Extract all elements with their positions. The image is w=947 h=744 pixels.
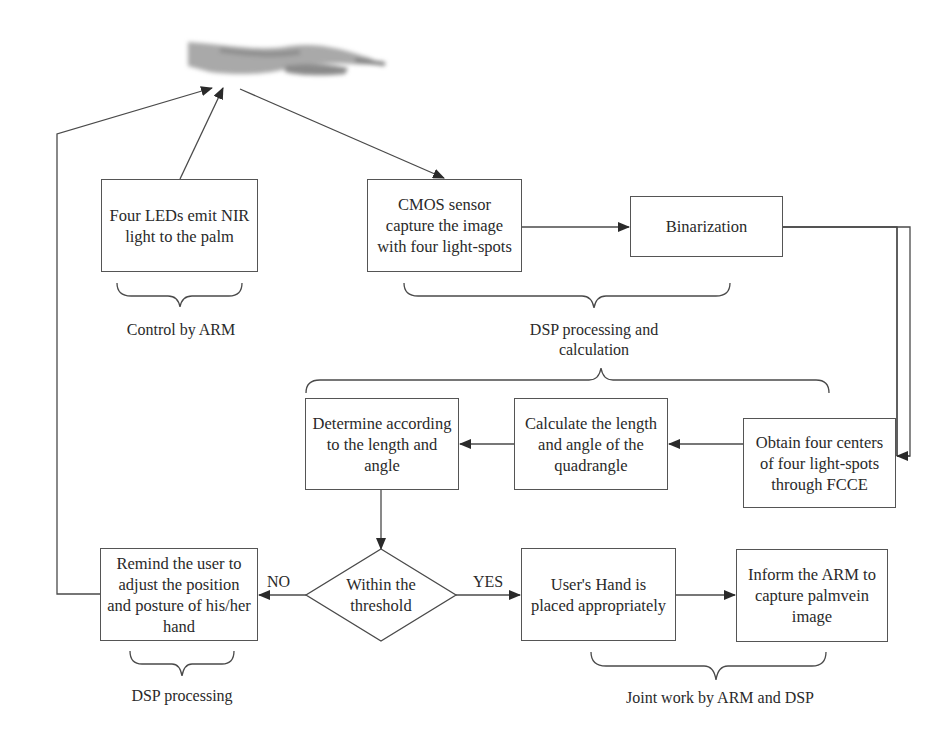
node-remind-user: Remind the user to adjust the position a… xyxy=(100,548,258,641)
group-label-control-arm: Control by ARM xyxy=(118,320,244,340)
node-binarization-text: Binarization xyxy=(666,216,748,237)
group-label-dsp-processing: DSP processing xyxy=(122,686,242,706)
decision-within-threshold: Within the threshold xyxy=(316,574,446,616)
node-hand-placed-text: User's Hand is placed appropriately xyxy=(528,574,669,616)
node-cmos-sensor: CMOS sensor capture the image with four … xyxy=(367,179,522,272)
edge-label-no: NO xyxy=(267,572,290,592)
node-inform-arm: Inform the ARM to capture palmvein image xyxy=(736,549,888,642)
flowchart-canvas: Four LEDs emit NIR light to the palm CMO… xyxy=(0,0,947,744)
group-label-joint-work: Joint work by ARM and DSP xyxy=(620,688,820,708)
node-calculate-quadrangle: Calculate the length and angle of the qu… xyxy=(514,398,668,490)
node-four-leds: Four LEDs emit NIR light to the palm xyxy=(101,179,258,272)
node-obtain-centers-text: Obtain four centers of four light-spots … xyxy=(750,432,889,495)
node-four-leds-text: Four LEDs emit NIR light to the palm xyxy=(108,205,251,247)
node-binarization: Binarization xyxy=(630,196,783,257)
node-obtain-centers: Obtain four centers of four light-spots … xyxy=(743,418,896,508)
group-label-dsp-calc-1: DSP processing and xyxy=(514,320,674,340)
node-cmos-sensor-text: CMOS sensor capture the image with four … xyxy=(374,194,515,257)
node-calculate-quadrangle-text: Calculate the length and angle of the qu… xyxy=(521,413,661,476)
node-determine: Determine according to the length and an… xyxy=(305,398,459,490)
node-determine-text: Determine according to the length and an… xyxy=(312,413,452,476)
group-label-dsp-calc-2: calculation xyxy=(514,340,674,360)
node-hand-placed: User's Hand is placed appropriately xyxy=(521,548,676,641)
edge-label-yes: YES xyxy=(473,572,503,592)
decision-within-threshold-text: Within the threshold xyxy=(346,575,415,615)
node-remind-user-text: Remind the user to adjust the position a… xyxy=(107,553,251,637)
node-inform-arm-text: Inform the ARM to capture palmvein image xyxy=(743,564,881,627)
